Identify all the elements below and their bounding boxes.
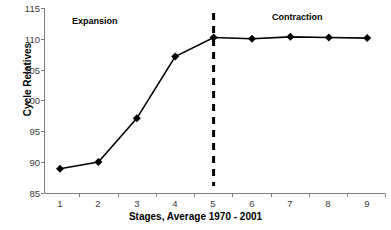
plot-area: [0, 0, 391, 230]
data-point-marker: [210, 33, 218, 41]
data-point-marker: [363, 34, 371, 42]
data-point-marker: [325, 33, 333, 41]
y-axis-ticks: [41, 9, 45, 194]
data-point-marker: [56, 165, 64, 173]
chart-container: Cycle Relatives 115 110 105 100 95 90 85…: [0, 0, 391, 230]
x-axis-ticks: [80, 194, 386, 198]
data-point-marker: [171, 53, 179, 61]
data-point-marker: [286, 33, 294, 41]
data-point-marker: [248, 35, 256, 43]
